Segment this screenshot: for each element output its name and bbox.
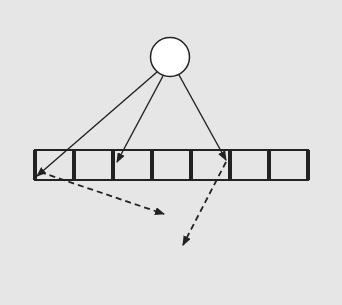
diagram-canvas xyxy=(0,0,342,305)
array-row xyxy=(35,150,308,180)
root-node-circle xyxy=(151,38,190,77)
